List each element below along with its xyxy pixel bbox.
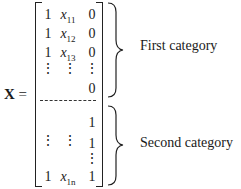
right-brace-icon bbox=[108, 106, 123, 185]
first-category-label: First category bbox=[140, 38, 217, 54]
category-braces bbox=[0, 0, 241, 189]
right-brace-icon bbox=[108, 3, 123, 97]
second-category-label: Second category bbox=[140, 135, 233, 151]
